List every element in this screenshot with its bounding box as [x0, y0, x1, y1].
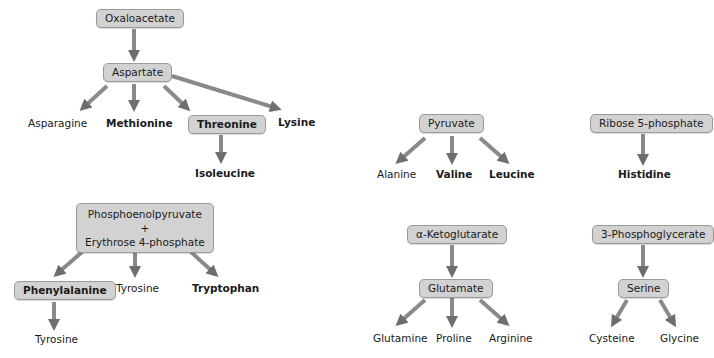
- node-methionine: Methionine: [106, 117, 173, 130]
- arrow-glutamate-arginine: [480, 300, 505, 322]
- pep-plus: +: [85, 221, 205, 235]
- node-alanine: Alanine: [377, 168, 416, 181]
- arrow-aspartate-threonine: [164, 86, 186, 107]
- node-ribose-5-phosphate: Ribose 5-phosphate: [590, 114, 713, 133]
- arrow-pep-phenylalanine: [58, 252, 82, 273]
- node-leucine: Leucine: [489, 168, 535, 181]
- arrow-pyruvate-leucine: [480, 138, 505, 160]
- node-cysteine: Cysteine: [589, 332, 635, 345]
- node-proline: Proline: [436, 332, 472, 345]
- node-pyruvate: Pyruvate: [419, 114, 484, 133]
- node-threonine: Threonine: [188, 115, 266, 134]
- node-glutamate: Glutamate: [419, 279, 493, 298]
- arrow-glutamate-glutamine: [400, 300, 425, 322]
- arrow-pep-tryptophan: [191, 252, 214, 273]
- arrow-serine-cysteine: [614, 300, 627, 322]
- node-valine: Valine: [436, 168, 472, 181]
- arrow-aspartate-lysine: [172, 76, 276, 108]
- node-asparagine: Asparagine: [28, 117, 87, 130]
- node-phenylalanine: Phenylalanine: [14, 281, 116, 300]
- node-serine: Serine: [618, 279, 669, 298]
- node-glycine: Glycine: [660, 332, 699, 345]
- node-pep-e4p: Phosphoenolpyruvate + Erythrose 4-phosph…: [76, 203, 214, 253]
- node-glutamine: Glutamine: [373, 332, 428, 345]
- node-arginine: Arginine: [489, 332, 533, 345]
- node-oxaloacetate: Oxaloacetate: [96, 9, 184, 28]
- node-lysine: Lysine: [278, 116, 315, 129]
- node-histidine: Histidine: [618, 168, 671, 181]
- node-tyrosine-from-phe: Tyrosine: [35, 333, 78, 346]
- node-isoleucine: Isoleucine: [195, 167, 255, 180]
- arrow-pyruvate-alanine: [400, 138, 425, 160]
- pep-line2: Erythrose 4-phosphate: [85, 235, 205, 249]
- pep-line1: Phosphoenolpyruvate: [85, 207, 205, 221]
- node-tryptophan: Tryptophan: [192, 282, 259, 295]
- node-alpha-ketoglutarate: α-Ketoglutarate: [407, 225, 507, 244]
- node-tyrosine-direct: Tyrosine: [116, 282, 159, 295]
- node-aspartate: Aspartate: [103, 63, 172, 82]
- node-3-phosphoglycerate: 3-Phosphoglycerate: [592, 225, 714, 244]
- arrow-serine-glycine: [660, 300, 673, 322]
- arrow-aspartate-asparagine: [84, 86, 107, 107]
